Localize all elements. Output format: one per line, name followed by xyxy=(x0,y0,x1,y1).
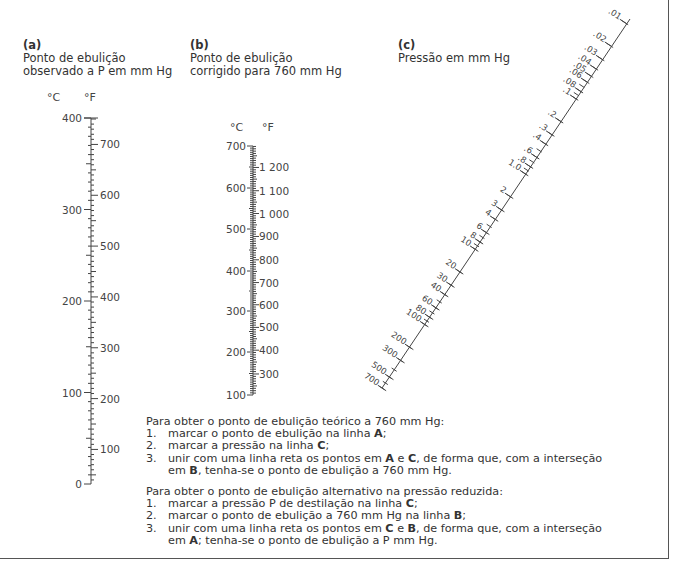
fahrenheit-label: 800 xyxy=(259,254,279,266)
pressure-label: .2 xyxy=(546,107,558,120)
celsius-label: 300 xyxy=(62,204,82,216)
fahrenheit-label: 700 xyxy=(259,277,279,289)
celsius-label: 700 xyxy=(226,140,246,152)
fahrenheit-label: 200 xyxy=(100,393,120,405)
scale-c-pressure: .01.02.03.04.05.06.08.1.2.3.4.6.81.02346… xyxy=(362,6,630,391)
step-text: e xyxy=(394,522,408,535)
unit-fahrenheit: °F xyxy=(84,91,96,104)
step-text: ; xyxy=(325,439,329,452)
unit-celsius: °C xyxy=(230,121,244,134)
fahrenheit-label: 1 200 xyxy=(259,161,289,173)
celsius-label: 300 xyxy=(226,305,246,317)
fahrenheit-label: 500 xyxy=(100,240,120,252)
step-text: , de forma que, com a interseção xyxy=(416,452,602,465)
fahrenheit-label: 400 xyxy=(100,291,120,303)
pressure-label: 6 xyxy=(475,220,485,231)
step-text: marcar o ponto de ebulição na linha xyxy=(168,427,374,440)
step-text: e xyxy=(394,452,408,465)
fahrenheit-label: 500 xyxy=(259,321,279,333)
celsius-label: 600 xyxy=(226,182,246,194)
line-letter: C xyxy=(385,522,393,535)
fahrenheit-label: 600 xyxy=(259,299,279,311)
fahrenheit-label: 900 xyxy=(259,230,279,242)
step-text: marcar o ponto de ebulição a 760 mm Hg n… xyxy=(168,509,454,522)
line-letter: A xyxy=(374,427,383,440)
line-letter: B xyxy=(189,464,198,477)
step-text: , tenha-se o ponto de ebulição a 760 mm … xyxy=(198,464,452,477)
pressure-label: 3 xyxy=(490,197,500,208)
instructions-alternative: Para obter o ponto de ebulição alternati… xyxy=(146,486,602,547)
line-letter: B xyxy=(408,522,417,535)
step-text: marcar a pressão P de destilação na linh… xyxy=(168,497,406,510)
step-text: unir com uma linha reta os pontos em xyxy=(168,522,385,535)
celsius-label: 100 xyxy=(226,389,246,401)
instructions-theoretical: Para obter o ponto de ebulição teórico a… xyxy=(146,416,602,477)
line-letter: C xyxy=(406,497,414,510)
step-text: ; xyxy=(414,497,418,510)
pressure-label: 4 xyxy=(483,207,493,218)
step-number: 2. xyxy=(146,440,157,452)
fahrenheit-label: 100 xyxy=(100,443,120,455)
alternative-step-3: 3.unir com uma linha reta os pontos em C… xyxy=(146,523,602,547)
unit-fahrenheit: °F xyxy=(262,121,274,134)
step-number: 3. xyxy=(146,523,157,535)
line-letter: A xyxy=(385,452,394,465)
fahrenheit-label: 400 xyxy=(259,344,279,356)
pressure-label: .4 xyxy=(531,130,543,143)
step-text: ; xyxy=(462,509,466,522)
step-text: ; xyxy=(383,427,387,440)
fahrenheit-label: 600 xyxy=(100,189,120,201)
celsius-label: 500 xyxy=(226,223,246,235)
line-letter: A xyxy=(189,534,198,547)
celsius-label: 400 xyxy=(226,265,246,277)
celsius-label: 400 xyxy=(62,112,82,124)
fahrenheit-label: 1 100 xyxy=(259,185,289,197)
step-text: em xyxy=(168,534,189,547)
unit-celsius: °C xyxy=(47,91,61,104)
step-number: 2. xyxy=(146,510,157,522)
step-text: unir com uma linha reta os pontos em xyxy=(168,452,385,465)
step-text: ; tenha-se o ponto de ebulição a P mm Hg… xyxy=(198,534,438,547)
fahrenheit-label: 1 000 xyxy=(259,208,289,220)
celsius-label: 200 xyxy=(226,346,246,358)
step-number: 3. xyxy=(146,453,157,465)
scale-a-celsius-fahrenheit: °C°F4003002001000700600500400300200100 xyxy=(47,91,120,490)
step-text: , de forma que, com a interseção xyxy=(416,522,602,535)
fahrenheit-label: 700 xyxy=(100,138,120,150)
step-text: marcar a pressão na linha xyxy=(168,439,317,452)
celsius-label: 200 xyxy=(62,295,82,307)
scale-b-celsius-fahrenheit: °C°F7006005004003002001001 2001 1001 000… xyxy=(226,121,289,401)
pressure-label: 2 xyxy=(498,184,508,195)
theoretical-step-3: 3.unir com uma linha reta os pontos em A… xyxy=(146,453,602,477)
celsius-label: 0 xyxy=(75,478,82,490)
celsius-label: 100 xyxy=(62,387,82,399)
fahrenheit-label: 300 xyxy=(100,342,120,354)
fahrenheit-label: 300 xyxy=(259,368,279,380)
step-text: em xyxy=(168,464,189,477)
